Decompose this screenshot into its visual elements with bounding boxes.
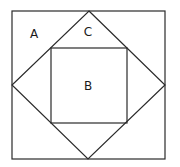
- label-c: C: [84, 26, 92, 38]
- label-b: B: [84, 80, 92, 92]
- label-a: A: [30, 28, 38, 40]
